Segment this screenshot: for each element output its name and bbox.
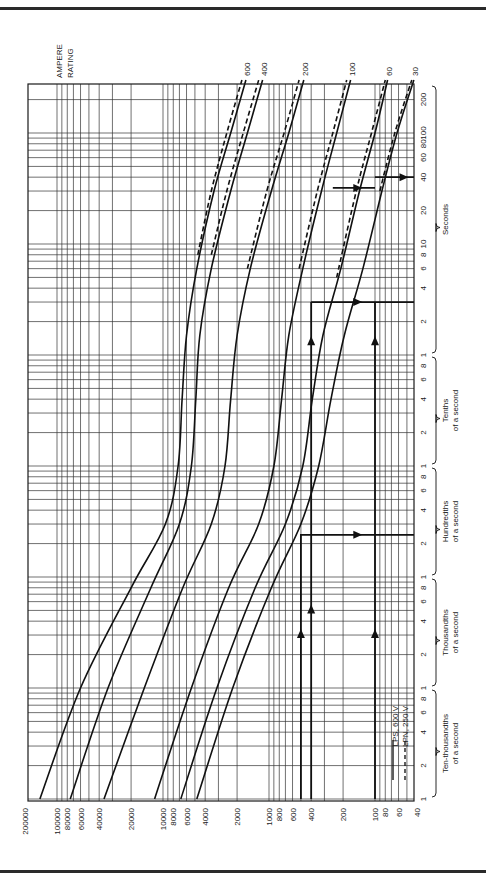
- current-tick-label: 100000: [53, 807, 62, 834]
- time-group-label: of a second: [451, 501, 460, 542]
- time-tick-label: 6: [419, 488, 428, 493]
- time-tick-label: 200: [419, 92, 428, 106]
- time-tick-label: 10: [419, 239, 428, 248]
- current-tick-label: 200000: [21, 807, 30, 834]
- current-tick-label: 1000: [265, 807, 274, 825]
- time-tick-labels: 1246812468124681246812468102040608010020…: [419, 92, 428, 801]
- time-group-label: Hundredths: [441, 501, 450, 542]
- time-tick-label: 20: [419, 206, 428, 215]
- current-tick-label: 10000: [159, 807, 168, 830]
- time-tick-label: 2: [419, 652, 428, 657]
- time-tick-label: 2: [419, 541, 428, 546]
- time-tick-label: 2: [419, 763, 428, 768]
- arrowhead: [353, 531, 362, 539]
- time-tick-label: 1: [419, 685, 428, 690]
- time-group-label: of a second: [451, 612, 460, 653]
- arrowhead: [307, 604, 315, 613]
- curve-100-solid: [155, 80, 351, 799]
- plot-frame: [28, 84, 414, 801]
- legend-label-lpn: LPN, 250 V: [401, 705, 410, 747]
- time-tick-label: 2: [419, 319, 428, 324]
- ampere-rating-line-2: RATING: [66, 48, 75, 78]
- time-tick-label: 8: [419, 585, 428, 590]
- arrowhead: [297, 629, 305, 638]
- time-tick-label: 1: [419, 463, 428, 468]
- current-tick-label: 6000: [183, 807, 192, 825]
- time-tick-label: 8: [419, 252, 428, 257]
- current-tick-label: 40: [413, 807, 422, 816]
- time-tick-label: 6: [419, 599, 428, 604]
- time-group-label: Thousandths: [441, 609, 450, 655]
- time-group-brace: [432, 690, 440, 797]
- curve-60-dashed: [337, 80, 386, 277]
- current-tick-label: 2000: [233, 807, 242, 825]
- current-tick-label: 80: [381, 807, 390, 816]
- time-tick-label: 4: [419, 507, 428, 512]
- time-group-label: of a second: [451, 723, 460, 764]
- time-group-brace: [432, 579, 440, 686]
- series-label-400: 400: [260, 62, 269, 76]
- time-tick-label: 4: [419, 285, 428, 290]
- arrowhead: [371, 629, 379, 638]
- time-tick-label: 4: [419, 729, 428, 734]
- time-tick-label: 40: [419, 172, 428, 181]
- time-group-brace: [432, 86, 440, 353]
- arrowhead: [371, 336, 379, 345]
- time-group-label: Ten-thousandths: [441, 714, 450, 773]
- current-tick-label: 60: [395, 807, 404, 816]
- current-tick-label: 100: [371, 807, 380, 821]
- time-tick-label: 4: [419, 396, 428, 401]
- current-tick-label: 200: [339, 807, 348, 821]
- current-tick-label: 80000: [63, 807, 72, 830]
- time-group-label: Seconds: [441, 204, 450, 235]
- grid: [28, 84, 414, 801]
- series-label-100: 100: [348, 62, 357, 76]
- series-label-60: 60: [385, 67, 394, 76]
- series-label-200: 200: [301, 62, 310, 76]
- time-tick-label: 1: [419, 352, 428, 357]
- time-tick-label: 6: [419, 377, 428, 382]
- arrowhead: [353, 298, 362, 306]
- current-tick-label: 8000: [169, 807, 178, 825]
- time-tick-label: 8: [419, 363, 428, 368]
- time-tick-label: 100: [419, 126, 428, 140]
- time-current-curve-chart: 2000001000008000060000400002000010000800…: [0, 0, 486, 882]
- ampere-rating-line-1: AMPERE: [55, 44, 64, 78]
- time-group-label: Tenths: [441, 399, 450, 423]
- curve-100-dashed: [299, 80, 347, 269]
- arrowhead: [307, 336, 315, 345]
- time-group-labels: Ten-thousandthsof a secondThousandthsof …: [432, 86, 460, 797]
- current-tick-label: 4000: [201, 807, 210, 825]
- series-labels: 6004002001006030: [243, 62, 420, 76]
- annotation-line: [301, 535, 414, 799]
- time-tick-label: 1: [419, 574, 428, 579]
- current-tick-labels: 2000001000008000060000400002000010000800…: [21, 807, 422, 834]
- time-tick-label: 60: [419, 153, 428, 162]
- time-tick-label: 2: [419, 430, 428, 435]
- current-tick-label: 60000: [77, 807, 86, 830]
- current-tick-label: 20000: [127, 807, 136, 830]
- time-group-brace: [432, 357, 440, 464]
- ampere-rating-title: AMPERE RATING: [55, 44, 75, 78]
- legend-label-lps: LPS, 600 V: [391, 705, 400, 746]
- series-label-30: 30: [411, 67, 420, 76]
- time-tick-label: 8: [419, 474, 428, 479]
- time-tick-label: 4: [419, 618, 428, 623]
- current-tick-label: 600: [289, 807, 298, 821]
- time-group-label: of a second: [451, 390, 460, 431]
- time-tick-label: 1: [419, 796, 428, 801]
- current-tick-label: 40000: [95, 807, 104, 830]
- time-tick-label: 6: [419, 710, 428, 715]
- time-tick-label: 8: [419, 696, 428, 701]
- series-label-600: 600: [243, 62, 252, 76]
- time-group-brace: [432, 468, 440, 575]
- time-tick-label: 6: [419, 266, 428, 271]
- current-tick-label: 400: [307, 807, 316, 821]
- current-tick-label: 800: [275, 807, 284, 821]
